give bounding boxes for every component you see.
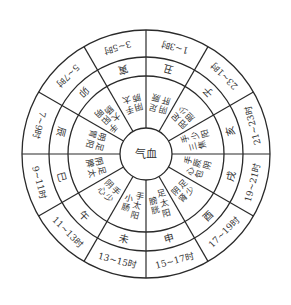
branch-label: 卯 bbox=[77, 85, 92, 100]
meridian-label: 足厥阴肝 bbox=[148, 92, 172, 116]
time-label: 15~17时 bbox=[154, 250, 195, 271]
meridian-char: 阳 bbox=[84, 138, 96, 149]
meridian-char: 阳 bbox=[129, 209, 140, 221]
time-label: 9~11时 bbox=[30, 165, 49, 200]
center-label: 气血 bbox=[135, 147, 157, 161]
time-label: 3~5时 bbox=[103, 39, 133, 57]
branch-label: 酉 bbox=[200, 208, 215, 223]
meridian-label: 足阳明胃 bbox=[84, 129, 108, 153]
meridian-char: 太 bbox=[121, 94, 132, 106]
branch-label: 未 bbox=[117, 232, 130, 245]
meridian-label: 足太阴脾 bbox=[84, 156, 108, 180]
branch-label: 午 bbox=[77, 208, 93, 224]
branch-label: 亥 bbox=[223, 125, 237, 138]
branch-label: 辰 bbox=[55, 125, 68, 138]
meridian-clock-diagram: 1~3时丑足厥阴肝23~1时子足少阳胆21~23时亥手少阳三焦19~21时戌手厥… bbox=[0, 0, 291, 305]
branch-label: 申 bbox=[162, 231, 175, 245]
time-label: 19~21时 bbox=[242, 162, 263, 203]
branch-label: 寅 bbox=[117, 63, 130, 77]
meridian-label: 手阳明大肠 bbox=[92, 100, 127, 135]
branch-label: 巳 bbox=[55, 170, 68, 183]
meridian-char: 阳 bbox=[199, 127, 211, 138]
meridian-char: 阴 bbox=[201, 160, 213, 171]
meridian-char: 厥 bbox=[150, 92, 161, 104]
time-label: 13~15时 bbox=[97, 250, 138, 271]
time-label: 1~3时 bbox=[160, 39, 190, 57]
meridian-char: 阳 bbox=[161, 207, 172, 219]
time-label: 23~1时 bbox=[208, 60, 240, 92]
meridian-label: 手太阴肺 bbox=[121, 92, 145, 116]
branch-label: 丑 bbox=[162, 63, 175, 76]
meridian-char: 太 bbox=[86, 168, 98, 179]
branch-label: 子 bbox=[200, 85, 215, 100]
time-label: 7~9时 bbox=[31, 111, 49, 141]
time-label: 21~23时 bbox=[242, 105, 263, 146]
branch-label: 戌 bbox=[223, 170, 237, 183]
